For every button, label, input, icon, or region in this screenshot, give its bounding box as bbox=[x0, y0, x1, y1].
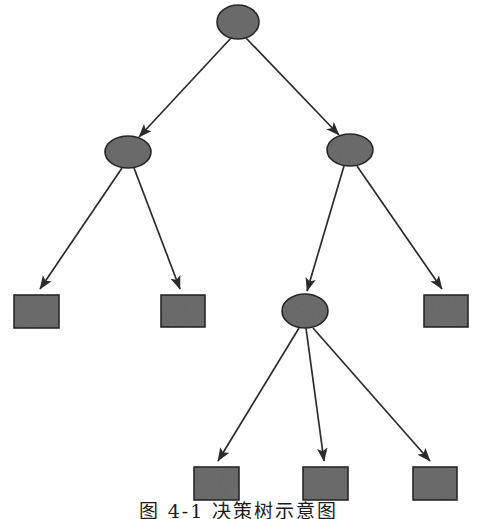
edge-subnode-to-leaf6 bbox=[313, 328, 430, 461]
decision-tree-figure: 图 4-1 决策树示意图 bbox=[0, 0, 477, 519]
leaf-node-4[interactable] bbox=[194, 467, 239, 500]
edge-right-to-leaf3 bbox=[357, 166, 442, 289]
tree-edges bbox=[40, 38, 442, 461]
decision-node-left[interactable] bbox=[105, 136, 151, 168]
decision-node-right[interactable] bbox=[327, 134, 373, 166]
edge-root-to-right bbox=[246, 38, 339, 135]
leaf-node-2[interactable] bbox=[161, 295, 205, 327]
tree-diagram-canvas bbox=[0, 0, 477, 519]
leaf-node-5[interactable] bbox=[303, 467, 348, 500]
edge-subnode-to-leaf4 bbox=[218, 328, 299, 461]
leaf-node-3[interactable] bbox=[424, 295, 468, 327]
edge-root-to-left bbox=[139, 38, 231, 137]
decision-node-root[interactable] bbox=[217, 5, 259, 39]
decision-node-right-child[interactable] bbox=[282, 294, 328, 328]
edge-left-to-leaf2 bbox=[134, 168, 180, 289]
figure-caption: 图 4-1 决策树示意图 bbox=[0, 499, 477, 519]
edge-right-to-subnode bbox=[307, 166, 344, 291]
edge-subnode-to-leaf5 bbox=[306, 328, 324, 461]
edge-left-to-leaf1 bbox=[40, 168, 122, 289]
leaf-node-6[interactable] bbox=[413, 467, 457, 500]
leaf-node-1[interactable] bbox=[14, 295, 59, 328]
